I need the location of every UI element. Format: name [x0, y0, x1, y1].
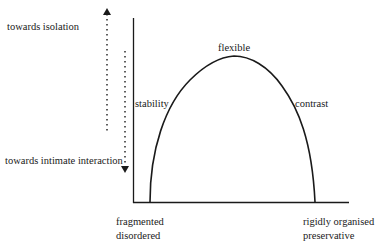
- preservative-label: preservative: [303, 230, 354, 242]
- arrow-down-icon: [121, 166, 129, 173]
- disordered-label: disordered: [116, 230, 160, 242]
- flexible-label: flexible: [218, 42, 250, 54]
- isolation-arrow: [103, 8, 111, 133]
- stability-label: stability: [135, 98, 169, 110]
- contrast-label: contrast: [295, 98, 328, 110]
- arrow-up-icon: [103, 8, 111, 15]
- towards-isolation-label: towards isolation: [7, 21, 79, 33]
- fragmented-label: fragmented: [116, 216, 164, 228]
- towards-intimate-interaction-label: towards intimate interaction: [5, 155, 123, 167]
- arch-curve: [150, 56, 315, 202]
- rigidly-organised-label: rigidly organised: [303, 216, 374, 228]
- diagram-canvas: [0, 0, 378, 248]
